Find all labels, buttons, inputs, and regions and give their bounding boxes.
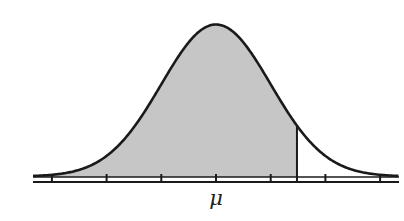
normal-distribution-chart bbox=[0, 0, 404, 221]
shaded-area bbox=[33, 25, 297, 177]
mean-label: μ bbox=[209, 186, 223, 210]
